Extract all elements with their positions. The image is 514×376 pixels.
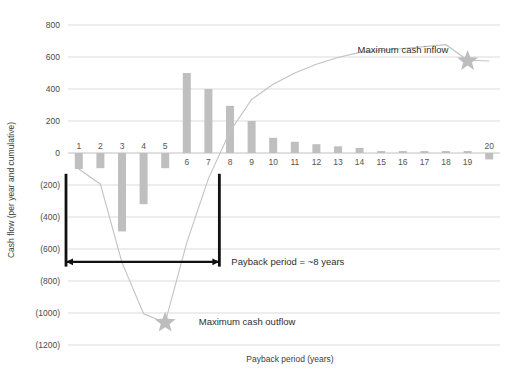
bar (248, 121, 256, 153)
bar (442, 151, 450, 153)
bar (377, 151, 385, 153)
x-axis-tick-label: 18 (441, 157, 451, 167)
x-axis-tick-label: 12 (312, 157, 322, 167)
y-axis-tick-label: 600 (46, 52, 60, 62)
x-axis-tick-label: 17 (420, 157, 430, 167)
y-axis-tick-label: (1000) (35, 308, 60, 318)
bar (269, 138, 277, 153)
y-axis-tick-label: (1200) (35, 340, 60, 350)
y-axis-tick-label: (200) (40, 180, 60, 190)
payback-period-label: Payback period = ~8 years (231, 256, 344, 267)
x-axis-tick-label: 2 (98, 141, 103, 151)
y-axis-tick-label: 200 (46, 116, 60, 126)
y-axis-tick-label: 0 (55, 148, 60, 158)
y-axis-tick-label: (800) (40, 276, 60, 286)
x-axis-tick-label: 1 (76, 141, 81, 151)
y-axis-tick-label: 400 (46, 84, 60, 94)
x-axis-tick-label: 4 (141, 141, 146, 151)
x-axis-tick-label: 11 (290, 157, 299, 167)
x-axis-tick-label: 14 (355, 157, 365, 167)
x-axis-tick-label: 20 (484, 141, 494, 151)
y-axis-tick-label: (400) (40, 212, 60, 222)
payback-period-chart: 8006004002000(200)(400)(600)(800)(1000)(… (0, 0, 514, 376)
bar (226, 106, 234, 153)
bar (399, 151, 407, 153)
bar (291, 142, 299, 153)
maximum-cash-outflow-label: Maximum cash outflow (199, 316, 296, 327)
bar (161, 153, 169, 168)
payback-start-marker (65, 174, 68, 267)
bar (464, 151, 472, 153)
x-axis-tick-label: 5 (163, 141, 168, 151)
bar (485, 153, 493, 159)
x-axis-tick-label: 8 (228, 157, 233, 167)
y-axis-title: Cash flow (per year and cumulative) (6, 122, 16, 258)
x-axis-tick-label: 19 (463, 157, 473, 167)
bar (204, 89, 212, 153)
bar (183, 73, 191, 153)
bar (75, 153, 83, 169)
x-axis-tick-label: 16 (398, 157, 408, 167)
y-axis-tick-label: (600) (40, 244, 60, 254)
x-axis-tick-label: 10 (268, 157, 278, 167)
x-axis-tick-label: 15 (376, 157, 386, 167)
bar (356, 148, 364, 153)
bar (312, 144, 320, 153)
x-axis-tick-label: 6 (184, 157, 189, 167)
bar (118, 153, 126, 231)
bar (420, 151, 428, 153)
x-axis-tick-label: 9 (249, 157, 254, 167)
x-axis-tick-label: 13 (333, 157, 343, 167)
y-axis-tick-label: 800 (46, 20, 60, 30)
maximum-cash-inflow-label: Maximum cash inflow (358, 44, 449, 55)
x-axis-tick-label: 7 (206, 157, 211, 167)
chart-canvas: 8006004002000(200)(400)(600)(800)(1000)(… (0, 0, 514, 376)
payback-end-marker (218, 174, 221, 267)
x-axis-tick-label: 3 (120, 141, 125, 151)
bar (334, 146, 342, 153)
bar (140, 153, 148, 204)
bar (96, 153, 104, 168)
x-axis-title: Payback period (years) (246, 354, 334, 364)
